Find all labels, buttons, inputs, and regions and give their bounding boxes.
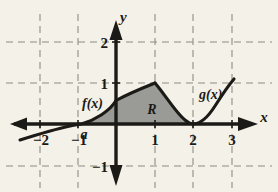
tick-label-y-1: 1 xyxy=(101,76,109,92)
f-curve-label: f(x) xyxy=(82,96,103,112)
x-axis-label: x xyxy=(259,109,268,125)
region-label: R xyxy=(146,102,156,117)
tick-label-x-2: 2 xyxy=(189,132,197,148)
y-axis-label: y xyxy=(118,9,127,25)
tick-label-x--2: −2 xyxy=(33,132,49,148)
g-curve-label: g(x) xyxy=(198,87,222,103)
lower-limit-label: a xyxy=(81,127,88,142)
figure-canvas: −2 −1 1 2 3 2 1 −1 y x f(x) g(x) R a xyxy=(0,0,278,192)
tick-label-x-1: 1 xyxy=(151,132,159,148)
tick-label-y-2: 2 xyxy=(101,35,109,51)
tick-label-y--1: −1 xyxy=(92,159,108,175)
graph-svg: −2 −1 1 2 3 2 1 −1 y x f(x) g(x) R a xyxy=(0,0,278,192)
tick-label-x-3: 3 xyxy=(228,132,236,148)
